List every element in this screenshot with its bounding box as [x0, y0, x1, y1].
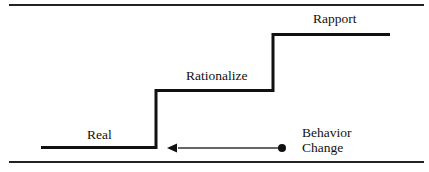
step-label-real: Real	[87, 127, 112, 142]
arrowhead-left-icon	[167, 144, 177, 153]
origin-dot-icon	[278, 144, 286, 152]
bottom-divider	[9, 161, 424, 163]
staircase-diagram	[0, 0, 429, 172]
step-label-rationalize: Rationalize	[186, 68, 247, 83]
behavior-change-label: Behavior Change	[302, 125, 352, 155]
step-label-rapport: Rapport	[313, 11, 357, 26]
behavior-change-line2: Change	[302, 140, 352, 155]
behavior-change-line1: Behavior	[302, 125, 352, 140]
